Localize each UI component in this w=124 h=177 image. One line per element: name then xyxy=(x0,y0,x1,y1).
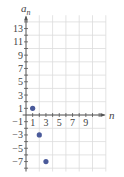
y-tick-label: −1 xyxy=(12,116,23,127)
y-tick-label: −7 xyxy=(12,156,23,167)
x-tick-label: 1 xyxy=(30,117,35,128)
chart: 13579131197531−1−3−5−7 an n xyxy=(0,0,124,177)
ticks: 13579131197531−1−3−5−7 xyxy=(12,22,99,168)
y-tick-label: 3 xyxy=(18,90,23,101)
grid xyxy=(26,15,106,171)
x-tick-label: 9 xyxy=(83,117,88,128)
y-tick-label: 5 xyxy=(18,76,23,87)
y-tick-label: 13 xyxy=(13,23,23,34)
y-tick-label: 9 xyxy=(18,50,23,61)
data-point xyxy=(30,106,35,111)
x-tick-label: 3 xyxy=(43,117,48,128)
y-tick-label: 1 xyxy=(18,103,23,114)
x-axis-label: n xyxy=(109,109,115,121)
x-tick-label: 7 xyxy=(70,117,75,128)
data-point xyxy=(37,132,42,137)
data-point xyxy=(43,159,48,164)
y-axis-label: an xyxy=(21,2,31,17)
x-tick-label: 5 xyxy=(57,117,62,128)
y-tick-label: 11 xyxy=(13,36,23,47)
y-tick-label: −3 xyxy=(12,129,23,140)
axes xyxy=(23,16,106,172)
y-tick-label: 7 xyxy=(18,63,23,74)
plot-area: 13579131197531−1−3−5−7 an n xyxy=(0,0,124,177)
y-tick-label: −5 xyxy=(12,143,23,154)
x-axis-arrow-icon xyxy=(100,113,105,117)
